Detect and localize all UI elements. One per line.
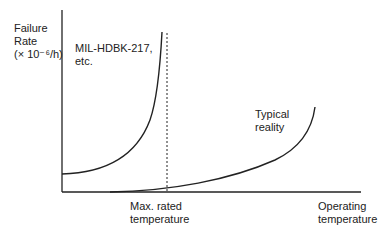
- typical-reality-label-2: reality: [255, 121, 284, 134]
- y-axis-label-1: Failure: [14, 22, 48, 35]
- x-axis-label-2: temperature: [318, 213, 377, 226]
- mil-hdbk-label-1: MIL-HDBK-217,: [75, 42, 153, 55]
- chart-canvas: [0, 0, 383, 233]
- max-rated-label-1: Max. rated: [130, 200, 182, 213]
- x-axis-label-1: Operating: [318, 200, 366, 213]
- mil-hdbk-label-2: etc.: [75, 55, 93, 68]
- y-axis-label-2: Rate: [14, 35, 37, 48]
- typical-reality-label-1: Typical: [255, 108, 289, 121]
- max-rated-label-2: temperature: [130, 213, 189, 226]
- y-axis-label-3: (× 10⁻⁶/h): [14, 48, 63, 61]
